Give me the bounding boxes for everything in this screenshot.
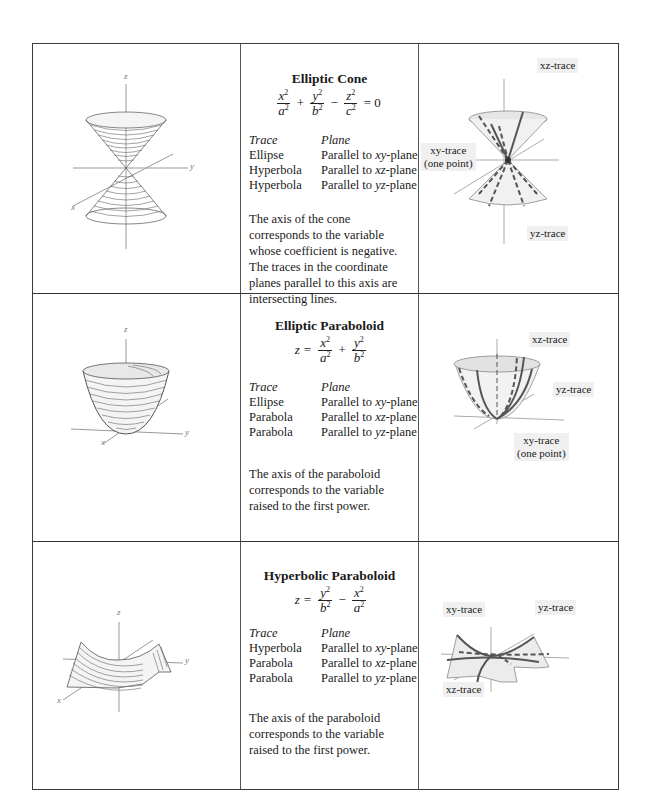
description-cell: Elliptic Cone x2a2 + y2b2 − z2c2 = 0 Tra… xyxy=(241,44,419,293)
surface-description: The axis of the paraboloid corresponds t… xyxy=(249,466,410,514)
trace-graph-cell: xz-trace yz-trace xy-trace(one point) xyxy=(419,294,618,541)
z-axis-label: z xyxy=(117,607,121,617)
xy-trace-label: xy-trace xyxy=(443,602,485,617)
row-elliptic-cone: z y x Elliptic Cone x2a2 + y2b2 − z2c2 =… xyxy=(33,44,618,293)
xz-trace-label: xz-trace xyxy=(443,682,484,697)
fraction-term: y2b2 xyxy=(318,586,333,614)
xz-trace-label: xz-trace xyxy=(529,332,570,347)
fraction-term: y2b2 xyxy=(352,336,367,364)
trace-row: HyperbolaParallel to yz-plane xyxy=(249,178,418,193)
y-axis-label: y xyxy=(185,655,189,665)
description-cell: Elliptic Paraboloid z = x2a2 + y2b2 Trac… xyxy=(241,294,419,541)
fraction-term: y2b2 xyxy=(310,89,325,117)
fraction-term: z2c2 xyxy=(344,89,358,117)
row-hyperbolic-paraboloid: z y x Hyperbolic Paraboloid z = y2b2 − x… xyxy=(33,541,618,789)
row-elliptic-paraboloid: z y x Elliptic Paraboloid z = x2a2 + y2b… xyxy=(33,293,618,541)
x-axis-label: x xyxy=(71,202,75,212)
x-axis-label: x xyxy=(57,695,61,705)
yz-trace-label: yz-trace xyxy=(527,226,568,241)
xy-trace-label: xy-trace(one point) xyxy=(421,143,476,171)
fraction-term: x2a2 xyxy=(318,336,333,364)
z-axis-label: z xyxy=(124,324,128,334)
surface-graph-cell: z y x xyxy=(33,542,241,789)
trace-table-header: TracePlane xyxy=(249,133,418,148)
surface-title: Elliptic Cone xyxy=(241,71,418,87)
trace-row: HyperbolaParallel to xy-plane xyxy=(249,641,418,656)
trace-table: TracePlane EllipseParallel to xy-plane P… xyxy=(249,380,418,440)
trace-row: EllipseParallel to xy-plane xyxy=(249,395,418,410)
y-axis-label: y xyxy=(190,161,194,171)
elliptic-paraboloid-traces-icon xyxy=(419,294,619,542)
surface-graph-cell: z y x xyxy=(33,294,241,541)
trace-table: TracePlane EllipseParallel to xy-plane H… xyxy=(249,133,418,193)
xy-trace-label: xy-trace(one point) xyxy=(514,433,569,461)
trace-row: ParabolaParallel to yz-plane xyxy=(249,671,418,686)
yz-trace-label: yz-trace xyxy=(535,600,576,615)
trace-table-header: TracePlane xyxy=(249,380,418,395)
surface-equation: z = y2b2 − x2a2 xyxy=(241,586,418,614)
xz-trace-label: xz-trace xyxy=(537,58,578,73)
elliptic-paraboloid-surface-icon xyxy=(33,294,241,542)
surface-equation: x2a2 + y2b2 − z2c2 = 0 xyxy=(241,89,418,117)
hyperbolic-paraboloid-surface-icon xyxy=(33,542,241,790)
surface-title: Elliptic Paraboloid xyxy=(241,318,418,334)
trace-row: EllipseParallel to xy-plane xyxy=(249,148,418,163)
trace-graph-cell: xy-trace yz-trace xz-trace xyxy=(419,542,618,789)
surface-equation: z = x2a2 + y2b2 xyxy=(241,336,418,364)
trace-graph-cell: xz-trace xy-trace(one point) yz-trace xyxy=(419,44,618,293)
description-cell: Hyperbolic Paraboloid z = y2b2 − x2a2 Tr… xyxy=(241,542,419,789)
surface-description: The axis of the paraboloid corresponds t… xyxy=(249,710,410,758)
x-axis-label: x xyxy=(101,437,105,447)
yz-trace-label: yz-trace xyxy=(553,382,594,397)
trace-row: HyperbolaParallel to xz-plane xyxy=(249,163,418,178)
fraction-term: x2a2 xyxy=(276,89,291,117)
trace-table: TracePlane HyperbolaParallel to xy-plane… xyxy=(249,626,418,686)
trace-row: ParabolaParallel to xz-plane xyxy=(249,410,418,425)
trace-row: ParabolaParallel to xz-plane xyxy=(249,656,418,671)
quadric-surfaces-table: z y x Elliptic Cone x2a2 + y2b2 − z2c2 =… xyxy=(32,43,619,790)
surface-graph-cell: z y x xyxy=(33,44,241,293)
z-axis-label: z xyxy=(124,71,128,81)
trace-table-header: TracePlane xyxy=(249,626,418,641)
trace-row: ParabolaParallel to yz-plane xyxy=(249,425,418,440)
surface-title: Hyperbolic Paraboloid xyxy=(241,568,418,584)
fraction-term: x2a2 xyxy=(352,586,367,614)
hyperbolic-paraboloid-traces-icon xyxy=(419,542,619,790)
y-axis-label: y xyxy=(185,427,189,437)
elliptic-cone-surface-icon xyxy=(33,44,241,293)
